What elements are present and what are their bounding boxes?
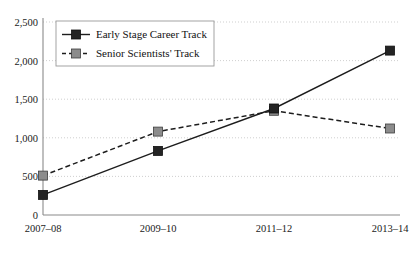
y-tick-label: 1,500 [14, 94, 38, 105]
data-point-marker [154, 127, 163, 136]
legend-label: Senior Scientists' Track [96, 47, 200, 59]
y-tick-label: 2,500 [14, 17, 38, 28]
data-point-marker [270, 104, 279, 113]
x-tick-label: 2013–14 [372, 223, 410, 234]
data-point-marker [39, 190, 48, 199]
chart-svg: 2,500 2,000 1,500 1,000 500 0 2007–08 20… [0, 0, 420, 262]
y-tick-label: 0 [33, 210, 38, 221]
x-tick-label: 2009–10 [140, 223, 177, 234]
data-point-marker [386, 46, 395, 55]
y-tick-label: 500 [22, 171, 38, 182]
data-point-marker [39, 171, 48, 180]
legend-marker-square-icon [72, 30, 81, 39]
legend-marker-square-icon [72, 49, 81, 58]
x-tick-label: 2011–12 [256, 223, 292, 234]
data-point-marker [154, 146, 163, 155]
y-tick-label: 1,000 [14, 133, 38, 144]
legend-label: Early Stage Career Track [96, 28, 207, 40]
line-chart: 2,500 2,000 1,500 1,000 500 0 2007–08 20… [0, 0, 420, 262]
x-tick-label: 2007–08 [25, 223, 62, 234]
data-point-marker [386, 124, 395, 133]
y-tick-label: 2,000 [14, 56, 38, 67]
chart-legend: Early Stage Career Track Senior Scientis… [56, 21, 214, 66]
